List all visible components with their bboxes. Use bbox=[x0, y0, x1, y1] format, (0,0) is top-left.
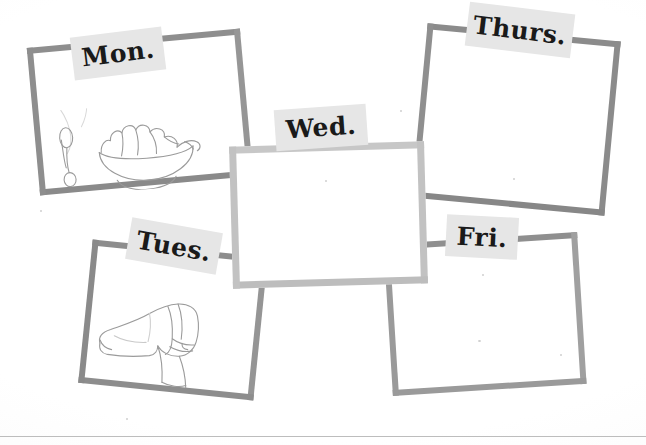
day-label-tag-fri: Fri. bbox=[445, 214, 519, 260]
box-edge-left bbox=[27, 47, 46, 195]
box-edge-right bbox=[598, 41, 620, 216]
scan-speck bbox=[560, 354, 562, 356]
box-edge-bottom bbox=[393, 378, 587, 396]
box-edge-bottom bbox=[78, 377, 254, 401]
scan-speck bbox=[325, 180, 327, 182]
scan-speck bbox=[126, 418, 128, 420]
scan-speck bbox=[400, 110, 402, 112]
day-label-text: Thurs. bbox=[472, 12, 568, 48]
day-box-thurs-frame bbox=[411, 23, 621, 215]
scan-speck bbox=[478, 340, 481, 342]
day-label-tag-wed: Wed. bbox=[274, 104, 369, 151]
worksheet-page: Mon. Tues. Wed. Thurs. Fri. bbox=[0, 0, 646, 445]
box-edge-bottom bbox=[411, 192, 605, 216]
day-box-wed[interactable] bbox=[229, 141, 428, 288]
page-bottom-rule bbox=[0, 436, 646, 437]
box-edge-right bbox=[571, 232, 587, 384]
scan-speck bbox=[513, 178, 515, 180]
box-edge-bottom bbox=[40, 170, 254, 195]
box-edge-left bbox=[78, 239, 99, 383]
day-box-thurs[interactable] bbox=[411, 23, 621, 215]
day-label-text: Wed. bbox=[285, 113, 357, 143]
day-label-text: Fri. bbox=[456, 223, 508, 251]
day-label-text: Tues. bbox=[135, 227, 214, 265]
day-box-wed-frame bbox=[229, 141, 428, 288]
scan-speck bbox=[40, 210, 42, 212]
scan-speck bbox=[482, 274, 484, 276]
day-label-text: Mon. bbox=[80, 37, 156, 71]
